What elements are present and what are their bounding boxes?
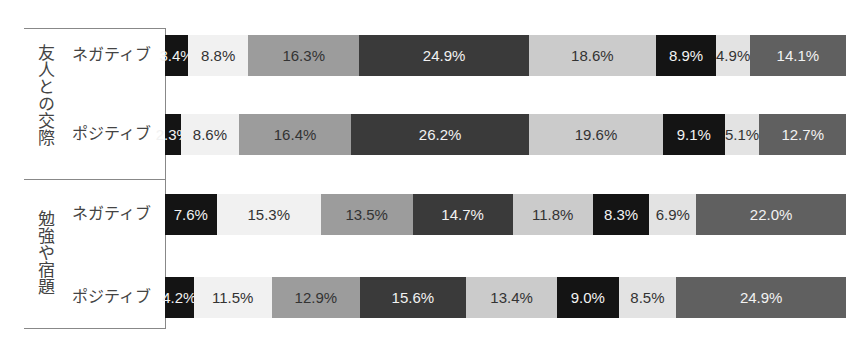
stacked-bar-friends-negative: 3.4%8.8%16.3%24.9%18.6%8.9%4.9%14.1%: [165, 35, 846, 76]
bar-segment: 8.5%: [619, 277, 677, 318]
group-label-study: 勉強や宿題: [30, 210, 54, 295]
bar-segment: 16.4%: [239, 114, 351, 155]
bar-segment: 22.0%: [696, 194, 846, 235]
bar-segment: 18.6%: [529, 35, 656, 76]
bar-segment: 9.1%: [663, 114, 725, 155]
bar-segment: 8.9%: [656, 35, 717, 76]
row-label-friends-positive: ポジティブ: [72, 124, 151, 144]
frame-bottom-line: [24, 328, 166, 329]
bar-segment: 4.2%: [165, 277, 194, 318]
bar-segment: 8.6%: [181, 114, 240, 155]
bar-segment: 15.3%: [217, 194, 321, 235]
bar-segment: 5.1%: [725, 114, 760, 155]
bar-segment: 12.9%: [272, 277, 360, 318]
bar-segment: 16.3%: [248, 35, 359, 76]
group-label-friends: 友人との交際: [30, 44, 54, 146]
bar-segment: 8.3%: [593, 194, 649, 235]
bar-segment: 11.5%: [194, 277, 272, 318]
bar-segment: 12.7%: [759, 114, 845, 155]
bar-segment: 14.1%: [750, 35, 846, 76]
bar-segment: 15.6%: [360, 277, 466, 318]
bar-segment: 13.4%: [466, 277, 557, 318]
bar-segment: 9.0%: [557, 277, 618, 318]
bar-segment: 2.3%: [165, 114, 181, 155]
bar-segment: 6.9%: [649, 194, 696, 235]
bar-segment: 4.9%: [716, 35, 749, 76]
frame-group-divider: [24, 179, 166, 180]
row-label-study-negative: ネガティブ: [72, 204, 151, 224]
bar-segment: 7.6%: [165, 194, 217, 235]
frame-top-line: [24, 28, 166, 29]
bar-segment: 24.9%: [359, 35, 529, 76]
bar-segment: 8.8%: [188, 35, 248, 76]
stacked-bar-study-positive: 4.2%11.5%12.9%15.6%13.4%9.0%8.5%24.9%: [165, 277, 846, 318]
bar-segment: 13.5%: [321, 194, 413, 235]
row-label-study-positive: ポジティブ: [72, 287, 151, 307]
bar-segment: 11.8%: [513, 194, 593, 235]
bar-segment: 24.9%: [676, 277, 846, 318]
bar-segment: 19.6%: [529, 114, 662, 155]
bar-segment: 26.2%: [351, 114, 529, 155]
row-label-friends-negative: ネガティブ: [72, 45, 151, 65]
bar-segment: 3.4%: [165, 35, 188, 76]
bar-segment: 14.7%: [413, 194, 513, 235]
stacked-bar-friends-positive: 2.3%8.6%16.4%26.2%19.6%9.1%5.1%12.7%: [165, 114, 846, 155]
stacked-bar-study-negative: 7.6%15.3%13.5%14.7%11.8%8.3%6.9%22.0%: [165, 194, 846, 235]
